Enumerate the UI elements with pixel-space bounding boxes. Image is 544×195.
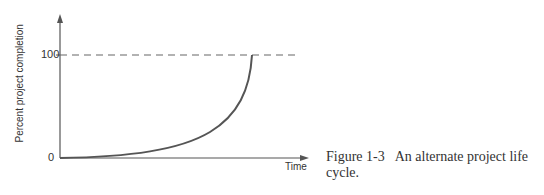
y-tick-100: 100 [41,48,59,60]
y-axis-label: Percent project completion [14,33,25,143]
x-axis-label: Time [285,161,307,172]
y-tick-0: 0 [48,151,54,163]
figure-number: Figure 1-3 [326,149,385,164]
completion-curve [60,55,252,158]
y-axis-arrow-icon [57,14,63,23]
figure-caption: Figure 1-3An alternate project life cycl… [326,149,544,181]
